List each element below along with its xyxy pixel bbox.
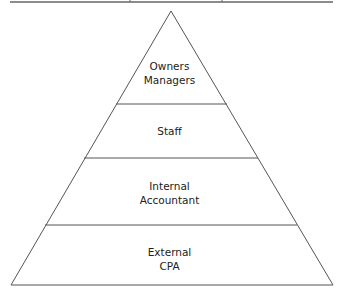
level-label-line: CPA xyxy=(0,259,339,273)
level-label-line: Internal xyxy=(0,179,339,193)
level-label-line: External xyxy=(0,245,339,259)
level-owners-managers: Owners Managers xyxy=(0,59,339,87)
level-label-line: Owners xyxy=(0,59,339,73)
level-label-line: Staff xyxy=(0,124,339,138)
level-internal-accountant: Internal Accountant xyxy=(0,179,339,207)
level-external-cpa: External CPA xyxy=(0,245,339,273)
level-label-line: Managers xyxy=(0,73,339,87)
pyramid-outline xyxy=(11,11,333,285)
level-staff: Staff xyxy=(0,124,339,138)
level-label-line: Accountant xyxy=(0,193,339,207)
